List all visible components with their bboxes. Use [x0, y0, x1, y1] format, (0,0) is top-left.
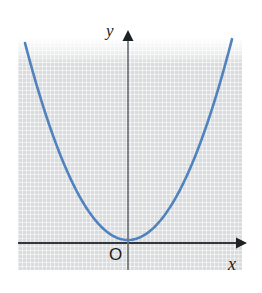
origin-label: O	[109, 246, 122, 263]
parabola-figure: y x O	[0, 0, 262, 293]
y-axis	[123, 30, 134, 270]
plot-canvas	[0, 0, 262, 293]
x-axis-label: x	[228, 255, 236, 273]
y-axis-arrowhead-icon	[123, 30, 134, 41]
y-axis-label: y	[106, 22, 114, 39]
x-axis-arrowhead-icon	[236, 238, 247, 249]
